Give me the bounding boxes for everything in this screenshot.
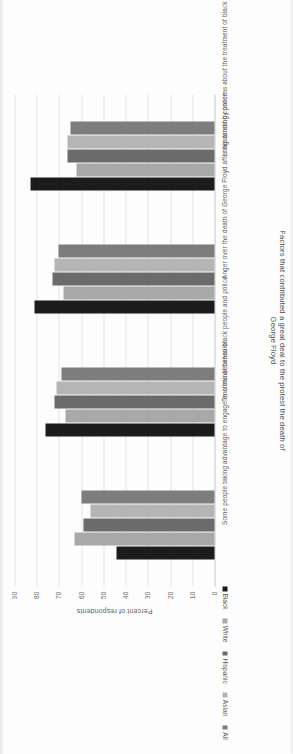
x-axis-category-label: Longstanding concerns about the treatmen… (220, 0, 227, 156)
bar[interactable] (63, 286, 214, 299)
legend-swatch-icon (222, 725, 227, 730)
y-axis-tick-label: 10 (188, 591, 195, 599)
rotated-chart-wrapper: 0102030405060708090 Percent of responden… (0, 0, 293, 754)
bar[interactable] (52, 272, 214, 285)
legend-label: White (221, 625, 228, 642)
bar[interactable] (67, 149, 214, 162)
bar[interactable] (56, 381, 214, 394)
bar[interactable] (30, 177, 214, 190)
bar[interactable] (58, 244, 214, 257)
y-axis-tick-label: 30 (144, 591, 151, 599)
legend-item[interactable]: Hispanic (221, 651, 228, 683)
x-axis-title: Factors that contributed a great deal to… (268, 125, 287, 555)
bar-group (14, 340, 214, 463)
bar[interactable] (34, 300, 214, 313)
legend-item[interactable]: Asian (221, 692, 228, 716)
bar[interactable] (74, 532, 214, 545)
legend-swatch-icon (222, 651, 227, 656)
x-axis-category-label: Tensions between black people and police (220, 276, 227, 402)
bar[interactable] (45, 423, 214, 436)
legend-item[interactable]: Black (221, 586, 228, 609)
bar[interactable] (116, 546, 214, 559)
y-axis-tick-label: 40 (122, 591, 129, 599)
bar[interactable] (54, 258, 214, 271)
legend-label: Asian (221, 699, 228, 716)
bar[interactable] (83, 518, 214, 531)
bar-groups (14, 94, 214, 586)
y-axis-tick-label: 50 (99, 591, 106, 599)
chart-legend: BlackWhiteHispanicAsianAll (221, 586, 228, 739)
bar[interactable] (81, 490, 214, 503)
y-axis-tick-label: 90 (11, 591, 18, 599)
bar[interactable] (90, 504, 214, 517)
x-axis-title-line-2: George Floyd (268, 125, 277, 555)
legend-label: Hispanic (221, 658, 228, 683)
y-axis-tick-label: 0 (211, 591, 218, 595)
bar-group (14, 94, 214, 217)
plot-area: 0102030405060708090 (14, 94, 215, 586)
legend-item[interactable]: White (221, 618, 228, 642)
x-axis-title-line-1: Factors that contributed a great deal to… (277, 125, 286, 555)
y-axis-tick-label: 80 (33, 591, 40, 599)
bar[interactable] (76, 163, 214, 176)
legend-swatch-icon (222, 618, 227, 623)
legend-swatch-icon (222, 692, 227, 697)
bar[interactable] (54, 395, 214, 408)
legend-label: All (221, 732, 228, 739)
legend-item[interactable]: All (221, 725, 228, 739)
bar[interactable] (61, 367, 214, 380)
y-axis-tick-label: 60 (77, 591, 84, 599)
scanned-page: 0102030405060708090 Percent of responden… (0, 0, 293, 754)
y-axis-tick-label: 70 (55, 591, 62, 599)
legend-swatch-icon (222, 586, 227, 591)
bar[interactable] (67, 135, 214, 148)
y-axis-tick-label: 20 (166, 591, 173, 599)
bar[interactable] (65, 409, 214, 422)
y-axis-title: Percent of respondents (76, 608, 152, 615)
legend-label: Black (221, 593, 228, 609)
bar-group (14, 463, 214, 586)
bar[interactable] (70, 121, 214, 134)
grouped-bar-chart: 0102030405060708090 Percent of responden… (0, 0, 293, 754)
bar-group (14, 217, 214, 340)
